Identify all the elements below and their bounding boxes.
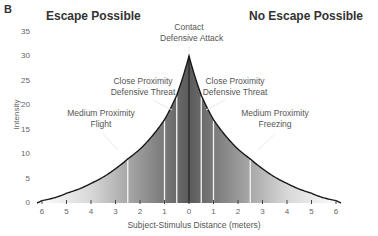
annotation-pointer (103, 134, 118, 150)
y-tick-label: 35 (14, 27, 30, 36)
annotation-pointer (153, 100, 172, 110)
y-tick-label: 30 (14, 51, 30, 60)
annotation-close-proximity-left: Close Proximity Defensive Threat (108, 76, 178, 98)
x-tick-label: 4 (85, 207, 97, 216)
y-tick-label: 25 (14, 76, 30, 85)
annotation-pointer (258, 134, 275, 150)
x-tick-label: 3 (257, 207, 269, 216)
x-tick-label: 4 (281, 207, 293, 216)
y-tick-label: 10 (14, 149, 30, 158)
y-tick-label: 5 (14, 174, 30, 183)
x-tick-label: 5 (306, 207, 318, 216)
annotation-contact: Contact Defensive Attack (160, 22, 218, 44)
x-tick-label: 2 (232, 207, 244, 216)
x-axis-label: Subject-Stimulus Distance (meters) (0, 220, 378, 230)
y-axis-label: Intensity (12, 95, 21, 135)
x-tick-label: 3 (110, 207, 122, 216)
x-tick-label: 2 (134, 207, 146, 216)
x-tick-label: 6 (330, 207, 342, 216)
x-tick-label: 0 (183, 207, 195, 216)
x-tick-label: 1 (208, 207, 220, 216)
annotation-pointer (206, 100, 225, 110)
y-tick-label: 0 (14, 198, 30, 207)
annotation-medium-proximity-freezing: Medium Proximity Freezing (238, 108, 312, 130)
x-tick-label: 5 (61, 207, 73, 216)
x-tick-label: 6 (36, 207, 48, 216)
annotation-close-proximity-right: Close Proximity Defensive Threat (200, 76, 270, 98)
x-tick-label: 1 (159, 207, 171, 216)
annotation-medium-proximity-flight: Medium Proximity Flight (64, 108, 138, 130)
